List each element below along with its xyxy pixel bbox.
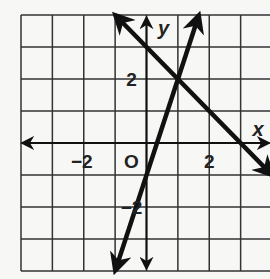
- x-axis-label: x: [251, 118, 264, 140]
- x-tick-label: 2: [204, 151, 215, 172]
- x-tick-label: −2: [71, 151, 93, 172]
- y-tick-label: 2: [126, 69, 137, 90]
- coordinate-plane: −222−2Oxy: [0, 0, 270, 279]
- origin-label: O: [124, 151, 139, 172]
- y-axis-label: y: [157, 17, 170, 39]
- y-tick-label: −2: [121, 197, 143, 218]
